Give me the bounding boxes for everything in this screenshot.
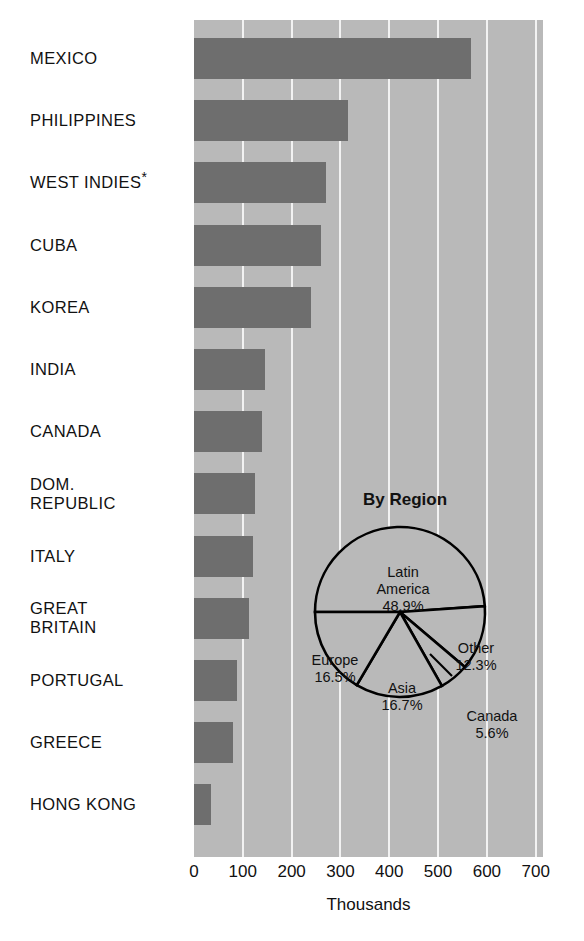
bar [194,411,262,452]
x-tick-label: 0 [189,862,198,882]
category-label: PHILIPPINES [30,111,190,130]
bar [194,722,233,763]
category-label: PORTUGAL [30,671,190,690]
category-label: DOM. REPUBLIC [30,475,190,513]
footnote-asterisk: * [141,169,147,185]
bar [194,349,265,390]
category-label: KOREA [30,298,190,317]
category-label: MEXICO [30,49,190,68]
x-tick-label: 500 [424,862,452,882]
bar [194,225,321,266]
category-label: WEST INDIES* [30,173,190,192]
category-label: ITALY [30,547,190,566]
category-label: CANADA [30,422,190,441]
x-tick-label: 100 [229,862,257,882]
pie-slice-label: Canada 5.6% [452,708,532,742]
bar [194,660,237,701]
x-tick-label: 200 [277,862,305,882]
category-label: GREAT BRITAIN [30,599,190,637]
x-tick-label: 600 [473,862,501,882]
category-label: GREECE [30,733,190,752]
x-tick-label: 300 [326,862,354,882]
pie-slice-label: Other 12.3% [440,640,512,674]
immigration-bar-chart: MEXICOPHILIPPINESWEST INDIES*CUBAKOREAIN… [0,0,584,941]
pie-slice-label: Latin America 48.9% [358,564,448,615]
pie-slice-label: Europe 16.5% [296,652,374,686]
bar [194,162,326,203]
category-label: CUBA [30,236,190,255]
x-axis-ticks: 0100200300400500600700 [0,862,584,886]
bar [194,38,471,79]
x-axis-title: Thousands [194,895,543,915]
bar [194,100,348,141]
pie-chart-inset: By Region Latin America 48.9%Other 12.3%… [300,490,550,780]
gridline [291,20,293,857]
bar [194,598,249,639]
pie-slice-label: Asia 16.7% [370,680,434,714]
category-label: HONG KONG [30,795,190,814]
x-tick-label: 700 [521,862,549,882]
category-label-column: MEXICOPHILIPPINESWEST INDIES*CUBAKOREAIN… [0,20,190,860]
bar [194,536,253,577]
x-tick-label: 400 [375,862,403,882]
pie-chart-title: By Region [300,490,510,510]
bar [194,287,311,328]
bar [194,784,211,825]
category-label: INDIA [30,360,190,379]
bar [194,473,255,514]
